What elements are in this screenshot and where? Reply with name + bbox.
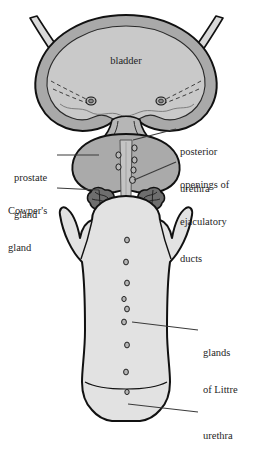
label-cowpers-gland-line-2: gland (8, 242, 47, 254)
label-glands-of-littre-line-2: of Littre (203, 384, 238, 396)
label-glands-of-littre: glands of Littre (203, 323, 238, 408)
bladder-label: bladder (110, 55, 142, 66)
label-openings-line-1: openings of (180, 179, 229, 191)
label-openings-line-2: ejaculatory (180, 216, 229, 228)
label-cowpers-gland-line-1: Cowper's (8, 205, 47, 217)
label-openings-line-3: ducts (180, 253, 229, 265)
label-urethra-line-1: urethra (203, 430, 233, 442)
bladder: bladder (35, 15, 216, 131)
label-openings-of-ejaculatory-ducts: openings of ejaculatory ducts (180, 155, 229, 277)
label-glands-of-littre-line-1: glands (203, 347, 238, 359)
ureteric-orifice-right (156, 97, 166, 105)
label-urethra: urethra (203, 406, 233, 455)
label-cowpers-gland: Cowper's gland (8, 181, 47, 266)
ureteric-orifice-left (86, 97, 96, 105)
